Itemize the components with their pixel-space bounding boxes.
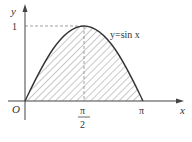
y-axis-label: y: [10, 5, 16, 17]
y-tick-1: 1: [12, 21, 17, 32]
x-axis-arrow-icon: [176, 99, 184, 104]
origin-label: O: [12, 103, 20, 115]
sine-area-diagram: y 1 y=sin x O π 2 π x: [0, 0, 192, 142]
x-tick-half-pi-denominator: 2: [80, 119, 85, 130]
x-axis-label: x: [179, 104, 185, 116]
y-axis-arrow-icon: [23, 4, 28, 12]
function-label: y=sin x: [110, 29, 140, 40]
x-tick-half-pi-numerator: π: [80, 105, 85, 116]
x-tick-pi: π: [139, 105, 144, 116]
